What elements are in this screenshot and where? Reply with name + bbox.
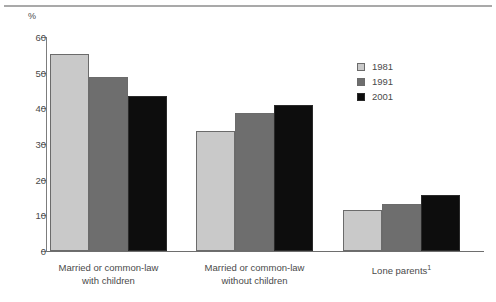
category-label-1: Married or common-lawwith children [24, 262, 193, 287]
footnote-marker: 1 [427, 264, 431, 271]
y-tick-label-10: 10 [12, 210, 46, 221]
legend-item-2001[interactable]: 2001 [357, 90, 393, 103]
chart-legend: 1981 1991 2001 [357, 60, 393, 105]
y-tick-label-50: 50 [12, 67, 46, 78]
bar-1981-group-3 [343, 210, 382, 251]
bar-1991-group-2 [235, 113, 274, 251]
bar-2001-group-3 [421, 195, 460, 251]
legend-swatch-1991-icon [357, 78, 365, 86]
legend-item-1981[interactable]: 1981 [357, 60, 393, 73]
legend-label-1981: 1981 [372, 61, 393, 72]
x-axis-baseline [46, 251, 484, 252]
legend-swatch-2001-icon [357, 93, 365, 101]
y-tick-label-40: 40 [12, 103, 46, 114]
category-label-2: Married or common-lawwithout children [170, 262, 339, 287]
legend-item-1991[interactable]: 1991 [357, 75, 393, 88]
category-label-3-line-1: Lone parents1 [317, 262, 486, 278]
plot-area: 6050403020100 Married or common-lawwith … [0, 0, 496, 302]
bar-2001-group-2 [274, 105, 313, 251]
y-tick-label-60: 60 [12, 32, 46, 43]
y-tick-label-0: 0 [12, 246, 46, 257]
legend-swatch-1981-icon [357, 63, 365, 71]
bar-1981-group-2 [196, 131, 235, 251]
legend-label-2001: 2001 [372, 91, 393, 102]
category-label-2-line-2: without children [170, 275, 339, 288]
category-label-3: Lone parents1 [317, 262, 486, 278]
chart-figure: % 6050403020100 Married or common-lawwit… [0, 0, 496, 302]
category-label-2-line-1: Married or common-law [170, 262, 339, 275]
bar-2001-group-1 [128, 96, 167, 251]
bar-1981-group-1 [50, 54, 89, 251]
bar-1991-group-3 [382, 204, 421, 251]
y-tick-label-20: 20 [12, 174, 46, 185]
category-label-1-line-1: Married or common-law [24, 262, 193, 275]
y-tick-label-30: 30 [12, 139, 46, 150]
legend-label-1991: 1991 [372, 76, 393, 87]
category-label-1-line-2: with children [24, 275, 193, 288]
bar-1991-group-1 [89, 77, 128, 251]
